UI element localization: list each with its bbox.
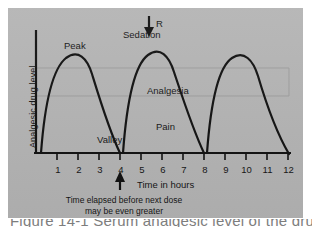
- drug-level-curve-3: [207, 55, 289, 154]
- x-tick-label-7: 7: [178, 165, 190, 175]
- next-dose-note-line-1: Time elapsed before next dose: [44, 196, 204, 205]
- x-tick-label-1: 1: [52, 165, 64, 175]
- figure-caption-text: Figure 14-1 Serum analgesic level of the…: [10, 219, 312, 227]
- next-dose-note-line-2: may be even greater: [44, 207, 204, 216]
- x-tick-label-8: 8: [199, 165, 211, 175]
- figure-panel: Analgesic drug level Sedation Analgesia …: [8, 8, 303, 218]
- x-tick-label-12: 12: [281, 165, 296, 175]
- x-axis-title: Time in hours: [137, 180, 194, 190]
- x-tick-label-10: 10: [239, 165, 254, 175]
- x-tick-label-6: 6: [157, 165, 169, 175]
- y-axis-label: Analgesic drug level: [29, 65, 38, 148]
- x-tick-label-9: 9: [220, 165, 232, 175]
- x-tick-label-3: 3: [94, 165, 106, 175]
- drug-level-curve-2: [123, 52, 204, 153]
- x-tick-label-5: 5: [136, 165, 148, 175]
- dose-marker-label: R: [156, 19, 163, 29]
- x-tick-label-2: 2: [73, 165, 85, 175]
- annotation-peak: Peak: [64, 41, 86, 51]
- annotation-valley: Valley: [97, 135, 122, 145]
- zone-label-pain: Pain: [156, 122, 175, 132]
- figure-caption: Figure 14-1 Serum analgesic level of the…: [0, 219, 312, 227]
- zone-label-analgesia: Analgesia: [147, 86, 189, 96]
- x-tick-label-4: 4: [115, 165, 127, 175]
- zone-label-sedation: Sedation: [123, 30, 161, 40]
- x-tick-label-11: 11: [260, 165, 275, 175]
